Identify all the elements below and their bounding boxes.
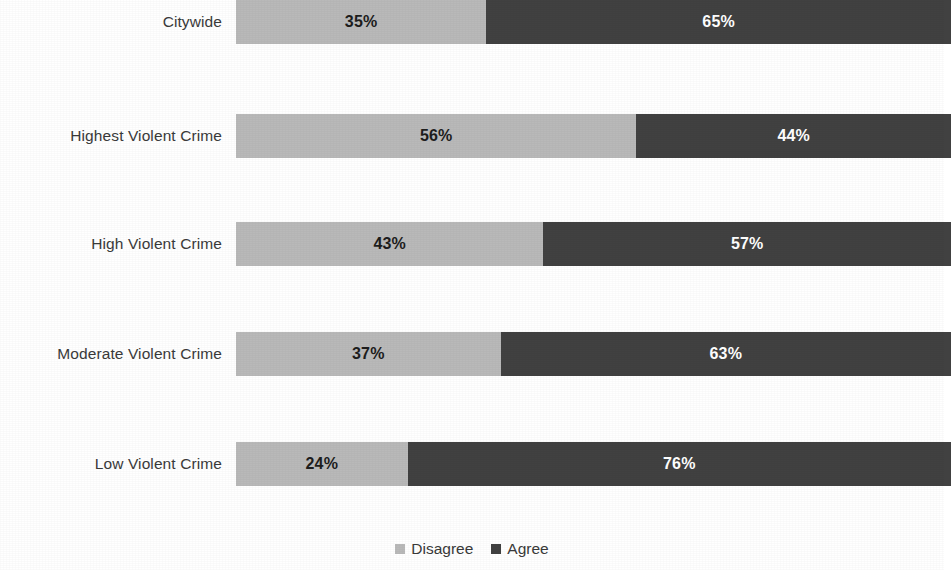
bar-segment-agree: 65% bbox=[486, 0, 951, 44]
bar-value-label: 56% bbox=[420, 127, 453, 145]
bar-value-label: 63% bbox=[709, 345, 742, 363]
category-label: Highest Violent Crime bbox=[0, 114, 222, 158]
bar-track: 35%65% bbox=[236, 0, 951, 44]
bar-segment-agree: 76% bbox=[408, 442, 951, 486]
bar-segment-disagree: 24% bbox=[236, 442, 408, 486]
bar-value-label: 37% bbox=[352, 345, 385, 363]
bar-segment-disagree: 43% bbox=[236, 222, 543, 266]
bar-track: 43%57% bbox=[236, 222, 951, 266]
bar-value-label: 35% bbox=[345, 13, 378, 31]
bar-segment-agree: 44% bbox=[636, 114, 951, 158]
bar-value-label: 76% bbox=[663, 455, 696, 473]
bar-row: Moderate Violent Crime37%63% bbox=[0, 332, 944, 376]
category-label: High Violent Crime bbox=[0, 222, 222, 266]
legend-item[interactable]: Agree bbox=[491, 540, 548, 558]
legend-item[interactable]: Disagree bbox=[395, 540, 473, 558]
bar-segment-agree: 63% bbox=[501, 332, 951, 376]
category-label: Citywide bbox=[0, 0, 222, 44]
bar-segment-disagree: 56% bbox=[236, 114, 636, 158]
bar-value-label: 24% bbox=[305, 455, 338, 473]
legend-label: Agree bbox=[507, 540, 548, 558]
bar-value-label: 65% bbox=[702, 13, 735, 31]
bar-value-label: 57% bbox=[731, 235, 764, 253]
bar-track: 37%63% bbox=[236, 332, 951, 376]
category-label: Low Violent Crime bbox=[0, 442, 222, 486]
bar-row: High Violent Crime43%57% bbox=[0, 222, 944, 266]
bar-segment-disagree: 37% bbox=[236, 332, 501, 376]
bar-row: Citywide35%65% bbox=[0, 0, 944, 44]
bar-track: 56%44% bbox=[236, 114, 951, 158]
category-label: Moderate Violent Crime bbox=[0, 332, 222, 376]
bar-value-label: 44% bbox=[777, 127, 810, 145]
bar-row: Highest Violent Crime56%44% bbox=[0, 114, 944, 158]
bar-value-label: 43% bbox=[373, 235, 406, 253]
bar-row: Low Violent Crime24%76% bbox=[0, 442, 944, 486]
bar-track: 24%76% bbox=[236, 442, 951, 486]
legend-swatch-disagree bbox=[395, 544, 405, 554]
bar-segment-agree: 57% bbox=[543, 222, 951, 266]
legend-label: Disagree bbox=[411, 540, 473, 558]
plot-area: Citywide35%65%Highest Violent Crime56%44… bbox=[0, 0, 944, 512]
chart-legend: DisagreeAgree bbox=[0, 536, 944, 562]
bar-segment-disagree: 35% bbox=[236, 0, 486, 44]
legend-swatch-agree bbox=[491, 544, 501, 554]
